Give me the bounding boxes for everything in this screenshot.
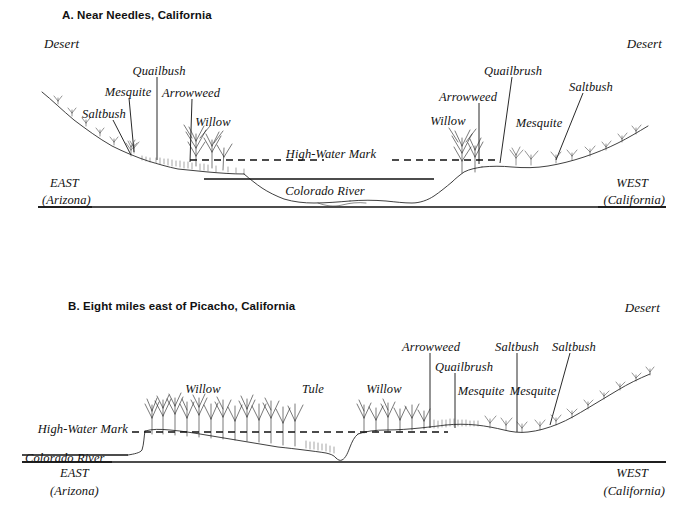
panel-b-mid-floodplain [446,374,650,432]
panel-a-shrub-mesquite-east [130,141,139,153]
panel-a-leader-saltbush-west [556,93,583,160]
panel-a-shrub-mesquite-west [510,147,538,165]
panel-a-desert-tufts-east [54,96,118,145]
panel-a-shrub-saltbush-west [551,125,641,163]
panel-a-graphic [38,77,666,207]
panel-a-west-slope [482,126,648,168]
panel-b-east-bank [128,431,145,455]
panel-a-west-bank [452,167,482,182]
panel-b-floodplain [145,429,336,458]
panel-a-leader-saltbush-east [113,120,131,155]
panel-b-graphic [22,353,666,462]
figure-root: A. Near Needles, California Desert Deser… [0,0,690,526]
cross-section-drawing [0,0,690,526]
panel-b-tule-channel [336,434,358,460]
panel-a-willow-clump-east [184,125,232,170]
panel-b-upland-shrubs [485,367,654,432]
panel-a-east-slope [42,92,244,174]
panel-b-leader-saltbush-2 [550,353,570,425]
panel-b-arrowweed-mat [434,419,478,428]
panel-a-willow-clump-west [449,128,483,173]
panel-a-channel-floor [350,182,452,203]
